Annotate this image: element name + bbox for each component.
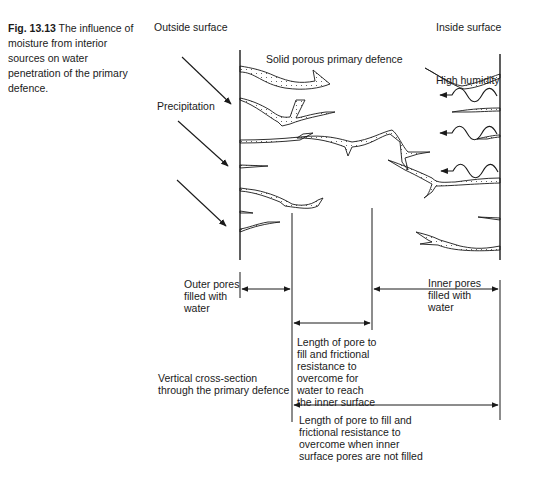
- diagram-canvas: [0, 0, 535, 482]
- humidity-wave-arrows: [440, 88, 498, 178]
- outer-pores: [240, 66, 430, 232]
- dimension-lines: [240, 208, 500, 422]
- precipitation-arrows: [177, 57, 231, 226]
